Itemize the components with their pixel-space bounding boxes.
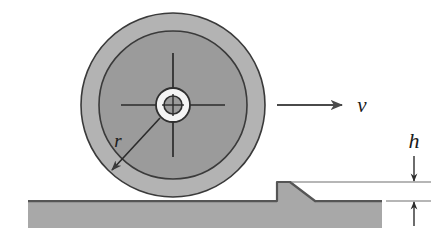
- radius-label: r: [114, 130, 122, 151]
- physics-diagram-figure: r v h: [0, 0, 441, 240]
- wheel-step-diagram: r v h: [0, 0, 441, 240]
- height-label: h: [409, 128, 420, 153]
- velocity-label: v: [357, 93, 367, 117]
- step-obstacle: [277, 182, 315, 228]
- ground-surface: [28, 201, 277, 228]
- velocity-annotation-group: v: [277, 93, 367, 117]
- ground-surface-right: [315, 201, 382, 228]
- wheel-group: [81, 13, 265, 197]
